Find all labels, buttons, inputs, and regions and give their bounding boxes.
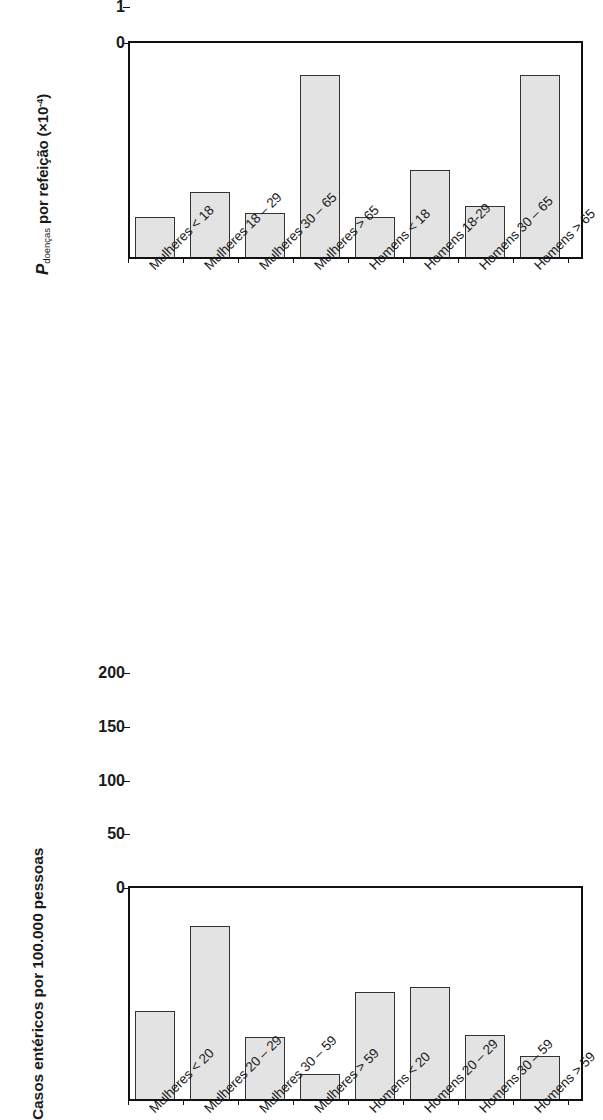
x-axis-tick-mark — [458, 257, 459, 263]
y-axis-title-close: ) — [34, 94, 51, 99]
y-axis-tick-label: 1 — [116, 0, 125, 14]
y-axis-tick-label: 0 — [116, 880, 125, 896]
y-axis-title-bottom: Casos entéricos por 100.000 pessoas — [30, 848, 46, 1120]
y-axis-tick-label: 0 — [116, 35, 125, 51]
x-axis-tick-mark — [513, 257, 514, 263]
y-axis-tick-label: 50 — [107, 826, 125, 842]
x-axis-tick-mark — [568, 257, 569, 263]
x-axis-tick-mark — [403, 1099, 404, 1105]
x-axis-tick-mark — [293, 257, 294, 263]
x-axis-tick-mark — [293, 1099, 294, 1105]
chart-bottom: Casos entéricos por 100.000 pessoas 0501… — [0, 420, 603, 831]
x-axis-tick-mark — [128, 257, 129, 263]
x-axis-tick-mark — [128, 1099, 129, 1105]
x-axis-tick-mark — [183, 1099, 184, 1105]
x-axis-tick-mark — [183, 257, 184, 263]
x-axis-tick-mark — [348, 1099, 349, 1105]
y-axis-variable-symbol: P — [33, 264, 52, 275]
y-axis-title-top: Pdoenças por refeição (×10-4) — [34, 94, 52, 275]
x-axis-tick-mark — [568, 1099, 569, 1105]
x-axis-tick-mark — [238, 257, 239, 263]
x-axis-tick-mark — [238, 1099, 239, 1105]
y-axis-variable-subscript: doenças — [41, 228, 52, 264]
x-axis-tick-mark — [348, 257, 349, 263]
y-axis-tick-label: 200 — [98, 665, 125, 681]
y-axis-exponent: -4 — [34, 99, 45, 107]
chart-top: Pdoenças por refeição (×10-4) 0123456 Mu… — [0, 0, 603, 420]
x-axis-tick-mark — [458, 1099, 459, 1105]
x-axis-tick-mark — [513, 1099, 514, 1105]
x-axis-tick-mark — [403, 257, 404, 263]
y-axis-tick-label: 150 — [98, 718, 125, 734]
y-axis-tick-label: 100 — [98, 772, 125, 788]
y-axis-title-rest: por refeição (×10 — [34, 107, 51, 228]
